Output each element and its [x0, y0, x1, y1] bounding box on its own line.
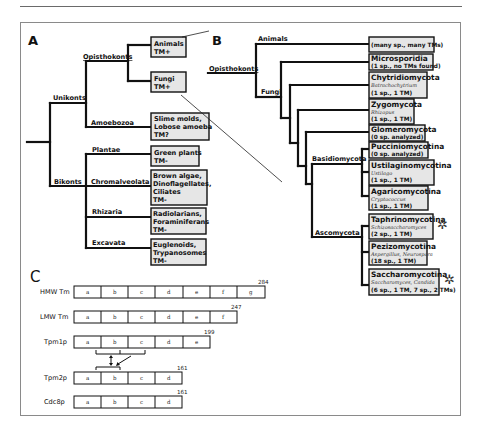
row-label: Tpm1p: [43, 338, 67, 346]
row-tpm1p: Tpm1p a b c d e 199: [43, 329, 215, 354]
box-title: Taphrinomycotina: [371, 215, 445, 224]
box-count: (2 sp., 1 TM): [371, 231, 412, 238]
segment-label: b: [113, 314, 117, 320]
duplication-arrows: [109, 355, 131, 366]
box-brown-algae: Brown algae, Dinoflagellates, Ciliates T…: [151, 170, 212, 205]
box-genus: Saccharomyces, Candida: [371, 279, 435, 286]
box-count: (1 sp., 1 TM): [371, 116, 412, 123]
box-title: Saccharomycotina: [371, 270, 447, 279]
box-title: Ustilaginomycotina: [371, 161, 451, 170]
panel-a-label: A: [28, 33, 38, 48]
length-label: 199: [204, 329, 215, 335]
length-label: 247: [231, 304, 242, 310]
segment-label: e: [195, 314, 198, 320]
clade-amoebozoa: Amoebozoa: [91, 119, 134, 127]
box-genus: Schizosaccharomyces: [371, 224, 427, 231]
box-zygomycota: Zygomycota Rhizopus (1 sp., 1 TM): [369, 99, 422, 124]
segment-label: b: [113, 339, 117, 345]
segment-label: c: [140, 399, 143, 405]
box-genus: Ustilago: [371, 170, 392, 177]
box-radiolarians: Radiolarians, Foraminiferans TM-: [151, 208, 209, 234]
duplication-bracket: [96, 350, 145, 354]
box-line: TM+: [154, 48, 171, 56]
box-animals: Animals TM+: [151, 37, 186, 57]
panel-b-label: B: [212, 33, 222, 48]
row-label: Tpm2p: [43, 374, 67, 382]
segment-label: g: [249, 289, 253, 296]
box-line: TM+: [154, 83, 171, 91]
box-saccharomycotina: Saccharomycotina Saccharomyces, Candida …: [369, 269, 456, 295]
row-label: Cdc8p: [44, 398, 65, 406]
asterisk-icon: ✲: [444, 272, 455, 287]
box-count: (1 sp., 1 TM): [371, 177, 412, 184]
box-fungi: Fungi TM+: [151, 72, 186, 92]
clade-ascomycota: Ascomycota: [315, 229, 360, 237]
box-count: (0 sp. analyzed): [371, 134, 424, 141]
box-genus: Aspergillus, Neurospora: [370, 251, 433, 258]
box-count: (0 sp. analyzed): [371, 151, 424, 158]
box-title: Zygomycota: [371, 100, 422, 109]
zoom-connector-top: [182, 31, 209, 37]
segment-label: c: [140, 339, 143, 345]
segment-label: d: [167, 314, 171, 320]
box-genus: Rhizopus: [370, 109, 395, 116]
segment-label: c: [140, 375, 143, 381]
panel-c: C HMW Tm a b c d e f g 284 LMW Tm: [30, 268, 269, 408]
row-cdc8p: Cdc8p a b c d 161: [44, 389, 188, 408]
clade-fungi-b: Fungi: [261, 88, 282, 96]
diagonal-arrow-icon: [118, 356, 131, 364]
box-title: Glomeromycota: [371, 125, 437, 134]
box-line: TM-: [154, 157, 168, 165]
clade-rhizaria: Rhizaria: [92, 208, 122, 216]
box-line: Radiolarians,: [153, 210, 202, 218]
segment-label: c: [140, 289, 143, 295]
box-slime-molds: Slime molds, Lobose amoeba TM?: [151, 113, 212, 140]
segment-label: b: [113, 289, 117, 295]
segment-label: d: [167, 339, 171, 345]
clade-animals-b: Animals: [258, 35, 288, 43]
box-line: TM?: [154, 131, 169, 139]
clade-opisthokonts: Opisthokonts: [83, 53, 132, 61]
box-b-animals: (many sp., many TMs): [369, 37, 444, 52]
panel-a-tree: [27, 45, 151, 248]
segment-label: c: [140, 314, 143, 320]
box-line: TM-: [153, 226, 167, 234]
box-ustilaginomycotina: Ustilaginomycotina Ustilago (1 sp., 1 TM…: [369, 160, 451, 185]
box-count: (many sp., many TMs): [371, 42, 444, 49]
box-title: Pezizomycotina: [371, 242, 436, 251]
box-title: Pucciniomycotina: [371, 142, 444, 151]
box-count: (6 sp., 1 TM, 7 sp., 2 TMs): [371, 287, 456, 294]
clade-opisthokonts-b: Opisthokonts: [209, 65, 258, 73]
clade-unikonts: Unikonts: [53, 94, 86, 102]
box-line: Animals: [154, 40, 184, 48]
box-glomeromycota: Glomeromycota (0 sp. analyzed): [369, 125, 437, 141]
box-chytridiomycota: Chytridiomycota Batrachochytrium (1 sp.,…: [369, 72, 440, 98]
row-label: LMW Tm: [40, 313, 68, 321]
box-genus: Batrachochytrium: [370, 82, 417, 89]
row-hmw-tm: HMW Tm a b c d e f g 284: [40, 279, 269, 298]
box-line: Ciliates: [153, 188, 181, 196]
length-label: 161: [177, 365, 188, 371]
box-agaricomycotina: Agaricomycotina Cryptococcus (1 sp., 1 T…: [369, 186, 441, 210]
segment-label: e: [195, 289, 198, 295]
row-label: HMW Tm: [40, 288, 70, 296]
segment-label: b: [113, 399, 117, 405]
box-count: (18 sp., 1 TM): [371, 258, 417, 265]
box-title: Agaricomycotina: [371, 187, 441, 196]
box-genus: Cryptococcus: [371, 196, 406, 203]
box-line: Euglenoids,: [153, 241, 196, 249]
box-line: Trypanosomes: [153, 249, 207, 257]
row-tpm2p: Tpm2p a b c d 161: [43, 365, 188, 384]
box-line: Green plants: [154, 149, 202, 157]
clade-bikonts: Bikonts: [54, 178, 82, 186]
panel-b-tree: [208, 44, 369, 285]
box-pezizomycotina: Pezizomycotina Aspergillus, Neurospora (…: [369, 241, 436, 265]
box-green-plants: Green plants TM-: [151, 146, 202, 166]
box-line: Slime molds,: [154, 115, 202, 123]
box-line: Fungi: [154, 75, 175, 83]
box-taphrinomycotina: Taphrinomycotina Schizosaccharomyces (2 …: [369, 214, 445, 239]
clade-plantae: Plantae: [92, 146, 121, 154]
box-title: Chytridiomycota: [371, 73, 440, 82]
clade-chromalveolata: Chromalveolata: [91, 178, 150, 186]
box-count: (1 sp., 1 TM): [371, 203, 412, 210]
